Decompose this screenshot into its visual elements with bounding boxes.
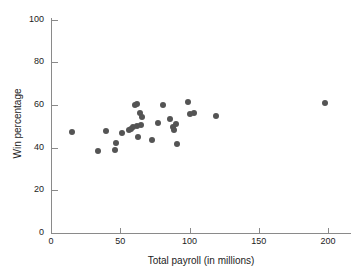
data-point <box>149 137 155 143</box>
data-point <box>171 127 177 133</box>
plot-area: 020406080100 050100150200 Total payroll … <box>0 0 358 275</box>
x-tick-label: 0 <box>31 236 71 246</box>
y-tick-mark <box>52 62 58 63</box>
y-tick-mark <box>52 190 58 191</box>
x-axis-title: Total payroll (in millions) <box>51 255 351 266</box>
data-point <box>167 116 173 122</box>
data-point <box>155 120 161 126</box>
data-point <box>134 101 140 107</box>
x-axis-line <box>51 233 351 234</box>
y-tick-label: 100 <box>16 14 44 24</box>
data-point <box>138 122 144 128</box>
x-tick-mark <box>51 228 52 234</box>
x-tick-label: 200 <box>308 236 348 246</box>
x-tick-mark <box>190 228 191 234</box>
data-point <box>95 148 101 154</box>
data-point <box>103 128 109 134</box>
y-tick-mark <box>52 148 58 149</box>
data-point <box>322 100 328 106</box>
x-tick-mark <box>328 228 329 234</box>
data-point <box>139 114 145 120</box>
data-point <box>173 121 179 127</box>
data-point <box>113 140 119 146</box>
y-tick-label: 20 <box>16 184 44 194</box>
x-tick-label: 150 <box>239 236 279 246</box>
x-tick-mark <box>259 228 260 234</box>
data-point <box>185 99 191 105</box>
y-tick-mark <box>52 105 58 106</box>
data-point <box>112 147 118 153</box>
data-point <box>191 110 197 116</box>
x-tick-mark <box>120 228 121 234</box>
y-axis-line <box>51 18 52 234</box>
data-point <box>160 102 166 108</box>
scatter-plot-figure: 020406080100 050100150200 Total payroll … <box>0 0 358 275</box>
data-point <box>213 113 219 119</box>
data-point <box>135 134 141 140</box>
data-point <box>174 141 180 147</box>
y-tick-mark <box>52 20 58 21</box>
x-tick-label: 50 <box>100 236 140 246</box>
data-point <box>119 130 125 136</box>
data-point <box>69 129 75 135</box>
x-tick-label: 100 <box>170 236 210 246</box>
y-axis-title: Win percentage <box>12 64 23 184</box>
